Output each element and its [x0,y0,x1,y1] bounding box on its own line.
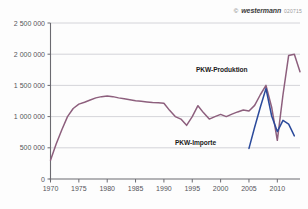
gridlines [51,23,301,148]
y-tick-label: 2 500 000 [14,20,45,27]
x-tick-label: 1990 [156,185,172,192]
x-tick-label: 1975 [71,185,87,192]
series-label-produktion: PKW-Produktion [196,66,248,73]
y-tick-label: 500 000 [20,144,45,151]
x-tick-label: 1970 [43,185,59,192]
line-chart: 0500 0001 000 0001 500 0002 000 0002 500… [0,0,308,209]
copyright-credit: © westermann 020715 [234,7,302,14]
x-tick-label: 2000 [213,185,229,192]
series-line-pkw-importe [249,89,294,149]
publisher-name: westermann [241,7,281,14]
figure-code: 020715 [284,9,302,14]
x-tick-label: 1980 [99,185,115,192]
chart-figure: 0500 0001 000 0001 500 0002 000 0002 500… [0,0,308,209]
x-tick-labels: 197019751980198519901995200020052010 [43,185,285,192]
copyright-symbol: © [234,8,238,14]
x-tick-label: 2010 [270,185,286,192]
y-tick-label: 2 000 000 [14,51,45,58]
y-tick-labels: 0500 0001 000 0001 500 0002 000 0002 500… [14,20,45,183]
y-axis [48,23,51,181]
x-axis [50,179,301,183]
y-tick-label: 1 500 000 [14,82,45,89]
y-tick-label: 0 [41,176,45,183]
series-label-importe: PKW-Importe [175,139,216,146]
x-tick-label: 1985 [128,185,144,192]
y-tick-label: 1 000 000 [14,113,45,120]
x-tick-label: 2005 [241,185,257,192]
x-tick-label: 1995 [184,185,200,192]
